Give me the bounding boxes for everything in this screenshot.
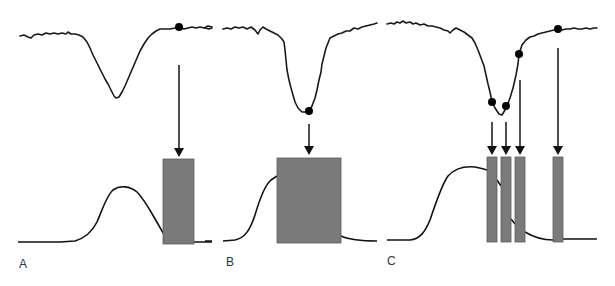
panel-a-pressure-trace [20, 26, 212, 98]
panel-b-pressure-trace [205, 23, 377, 112]
panel-b-shock-bar [277, 158, 341, 243]
panel-c-marker-dot-1 [488, 98, 496, 106]
panel-b [205, 23, 377, 243]
panel-b-marker-dot [305, 107, 313, 115]
panel-c-marker-dot-3 [515, 50, 523, 58]
panel-c-arrowhead-4-icon [553, 146, 563, 155]
panel-c-arrowhead-2-icon [501, 146, 511, 155]
panel-c [387, 21, 597, 242]
panel-b-arrowhead-icon [304, 146, 314, 155]
panel-a-arrowhead-icon [174, 148, 184, 157]
panel-c-marker-dot-2 [502, 102, 510, 110]
figure-canvas [0, 0, 615, 286]
panel-a-shock-bar [163, 159, 194, 244]
panel-a-label: A [19, 257, 27, 271]
panel-c-shock-bar-4 [553, 157, 563, 242]
panel-c-marker-dot-4 [554, 25, 562, 33]
panel-a [18, 23, 212, 244]
panel-a-marker-dot [175, 23, 183, 31]
panel-b-label: B [226, 255, 234, 269]
panel-c-arrowhead-3-icon [515, 146, 525, 155]
panel-c-shock-bar-2 [501, 157, 511, 242]
panel-c-arrowhead-1-icon [487, 146, 497, 155]
panel-c-shock-bar-1 [487, 157, 497, 242]
panel-c-label: C [387, 254, 396, 268]
panel-c-shock-bar-3 [515, 157, 525, 242]
